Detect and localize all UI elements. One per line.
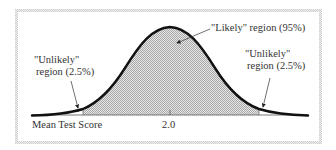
likely-region-shading <box>83 27 259 115</box>
arrow-right-unlikely <box>263 78 270 107</box>
center-tick-label: 2.0 <box>162 119 175 130</box>
unlikely-right-label-line1: "Unlikely" <box>245 48 290 59</box>
unlikely-left-label-line2: region (2.5%) <box>36 66 95 78</box>
arrow-left-unlikely <box>71 81 78 108</box>
normal-distribution-figure: "Likely" region (95%) "Unlikely" region … <box>0 0 336 150</box>
unlikely-right-label-line2: region (2.5%) <box>247 60 306 72</box>
likely-region-label: "Likely" region (95%) <box>211 22 306 34</box>
unlikely-left-label-line1: "Unlikely" <box>34 54 79 65</box>
x-axis-label: Mean Test Score <box>32 119 103 130</box>
